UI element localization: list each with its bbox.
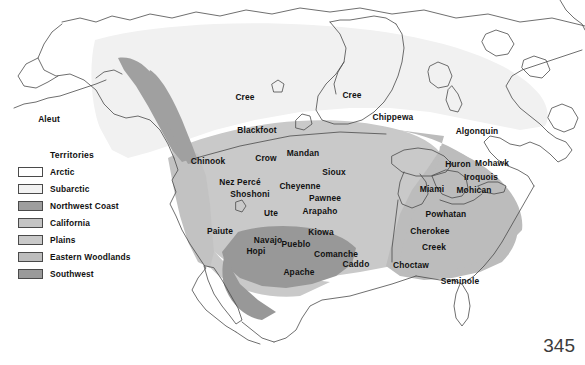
map-legend: Territories ArcticSubarcticNorthwest Coa… — [18, 150, 168, 283]
legend-item-label: Northwest Coast — [50, 201, 119, 211]
legend-item-label: Subarctic — [50, 184, 90, 194]
legend-item: Eastern Woodlands — [18, 249, 168, 265]
legend-item: Plains — [18, 232, 168, 248]
legend-color-swatch — [18, 201, 43, 211]
north-america-territories-map: AleutCreeCreeChippewaAlgonquinBlackfootC… — [0, 0, 585, 345]
legend-item-label: Plains — [50, 235, 76, 245]
legend-item: Arctic — [18, 164, 168, 180]
region-southwest — [222, 226, 356, 320]
legend-row-list: ArcticSubarcticNorthwest CoastCalifornia… — [18, 164, 168, 282]
legend-item-label: California — [50, 218, 90, 228]
legend-item-label: Southwest — [50, 269, 94, 279]
legend-color-swatch — [18, 184, 43, 194]
legend-item: California — [18, 215, 168, 231]
legend-color-swatch — [18, 235, 43, 245]
legend-color-swatch — [18, 252, 43, 262]
legend-color-swatch — [18, 218, 43, 228]
legend-color-swatch — [18, 269, 43, 279]
legend-item: Subarctic — [18, 181, 168, 197]
legend-color-swatch — [18, 167, 43, 177]
legend-item: Southwest — [18, 266, 168, 282]
legend-item: Northwest Coast — [18, 198, 168, 214]
legend-item-label: Arctic — [50, 167, 75, 177]
legend-title: Territories — [50, 150, 168, 160]
legend-item-label: Eastern Woodlands — [50, 252, 131, 262]
page-number: 345 — [543, 335, 575, 357]
